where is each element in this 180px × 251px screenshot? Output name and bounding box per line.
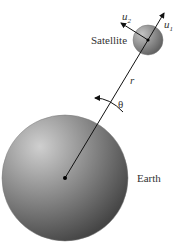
earth-label: Earth — [137, 172, 161, 184]
theta-label: θ — [118, 98, 123, 110]
r-label: r — [130, 74, 134, 86]
diagram-canvas — [0, 0, 180, 251]
earth-center-dot — [63, 176, 67, 180]
u2-label: u2 — [122, 10, 131, 25]
u1-label: u1 — [164, 18, 173, 33]
u2-sub: 2 — [128, 17, 132, 25]
u1-sub: 1 — [170, 25, 174, 33]
satellite-center-dot — [146, 38, 149, 41]
satellite-label: Satellite — [91, 34, 127, 46]
